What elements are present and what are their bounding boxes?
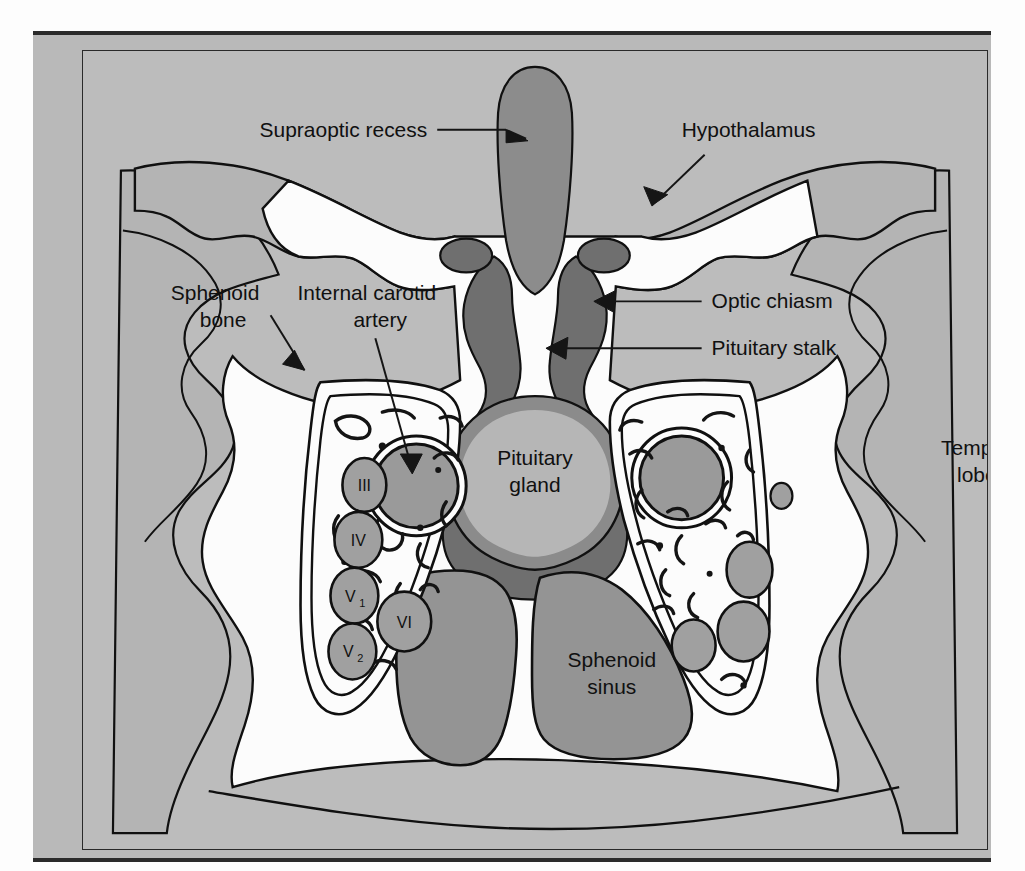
label-sphenoid-sinus-line2: sinus (587, 675, 636, 698)
nerve-V1[interactable]: V 1 (330, 568, 378, 624)
bottom-rule-divider (33, 858, 991, 862)
nerve-V2-label: V (343, 643, 354, 660)
label-pituitary-stalk: Pituitary stalk (712, 336, 837, 359)
nerve-VI[interactable]: VI (377, 592, 431, 652)
label-temporal-lobe-line2: lobe (957, 463, 987, 486)
label-sphenoid-bone-line2: bone (200, 308, 247, 331)
figure-frame: III IV V 1 V 2 VI (82, 50, 988, 850)
anatomy-diagram-svg: III IV V 1 V 2 VI (83, 51, 987, 849)
optic-nerve-oval-right (578, 239, 630, 273)
nerve-V2[interactable]: V 2 (328, 624, 376, 680)
nerve-V1-label: V (345, 588, 356, 605)
label-sphenoid-sinus-line1: Sphenoid (568, 648, 656, 671)
nerve-V2-subscript: 2 (357, 652, 363, 664)
label-internal-carotid-line1: Internal carotid (298, 281, 437, 304)
nerve-III-label: III (358, 477, 371, 494)
nerve-oval-right-2 (718, 602, 770, 662)
nerve-III[interactable]: III (342, 458, 386, 512)
page-canvas: III IV V 1 V 2 VI (0, 0, 1025, 871)
optic-nerve-oval-left (440, 239, 492, 273)
label-sphenoid-bone-line1: Sphenoid (171, 281, 259, 304)
nerve-IV[interactable]: IV (334, 512, 382, 568)
nerve-oval-right-4 (770, 483, 792, 509)
label-pituitary-gland-line1: Pituitary (497, 446, 573, 469)
nerve-V1-subscript: 1 (359, 597, 365, 609)
label-hypothalamus: Hypothalamus (682, 118, 816, 141)
label-internal-carotid-line2: artery (353, 308, 407, 331)
label-optic-chiasm: Optic chiasm (712, 289, 833, 312)
nerve-IV-label: IV (351, 532, 366, 549)
nerve-oval-right-1 (727, 542, 773, 598)
label-supraoptic-recess: Supraoptic recess (260, 118, 428, 141)
nerve-oval-right-3 (672, 620, 716, 672)
label-pituitary-gland-line2: gland (509, 473, 560, 496)
label-temporal-lobe-line1: Temporal (941, 436, 987, 459)
nerve-VI-label: VI (397, 614, 412, 631)
carotid-artery-right (640, 436, 724, 520)
